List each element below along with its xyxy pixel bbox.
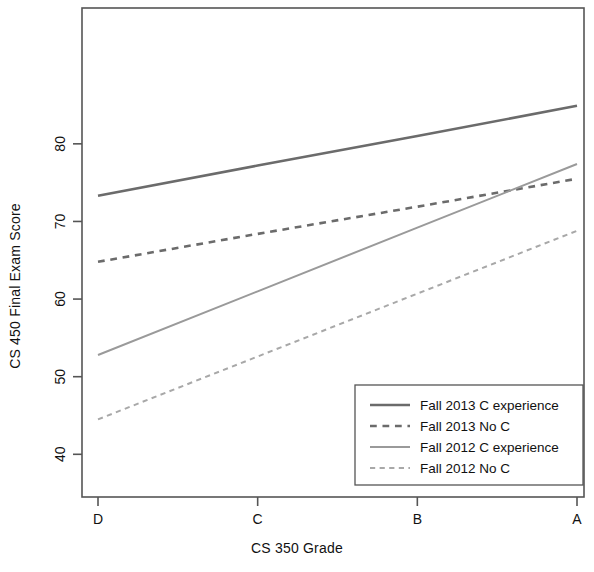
legend-label-1: Fall 2013 No C — [420, 419, 510, 434]
x-tick-label: D — [93, 511, 103, 527]
series-line-0 — [98, 106, 577, 196]
series-lines — [98, 106, 577, 420]
legend-label-2: Fall 2012 C experience — [420, 440, 559, 455]
series-line-1 — [98, 179, 577, 262]
y-tick-label: 80 — [52, 136, 68, 152]
x-axis-ticks: DCBA — [93, 497, 582, 527]
interaction-plot-figure: CS 450 Final Exam Score CS 350 Grade 405… — [0, 0, 594, 572]
series-line-2 — [98, 164, 577, 355]
x-axis-title: CS 350 Grade — [0, 540, 594, 556]
legend: Fall 2013 C experienceFall 2013 No CFall… — [355, 385, 583, 485]
y-tick-label: 40 — [52, 446, 68, 462]
x-tick-label: C — [253, 511, 263, 527]
y-axis-ticks: 4050607080 — [52, 136, 82, 462]
x-tick-label: A — [572, 511, 582, 527]
y-tick-label: 70 — [52, 213, 68, 229]
y-tick-label: 50 — [52, 369, 68, 385]
legend-label-0: Fall 2013 C experience — [420, 398, 559, 413]
legend-label-3: Fall 2012 No C — [420, 461, 510, 476]
y-axis-title: CS 450 Final Exam Score — [0, 0, 30, 572]
y-tick-label: 60 — [52, 291, 68, 307]
x-tick-label: B — [413, 511, 422, 527]
plot-area: 4050607080 DCBA Fall 2013 C experienceFa… — [0, 0, 594, 572]
